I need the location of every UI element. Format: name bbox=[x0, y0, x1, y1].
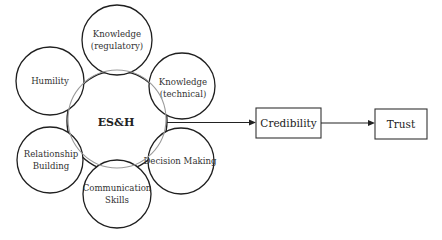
node-label-line1: Knowledge bbox=[159, 77, 207, 87]
node-label-line2: Skills bbox=[105, 195, 129, 205]
node-label-line2: (regulatory) bbox=[91, 41, 143, 51]
node-knowledge-regulatory: Knowledge (regulatory) bbox=[82, 5, 152, 75]
node-label-line1: Decision Making bbox=[143, 156, 217, 166]
flow-box-trust: Trust bbox=[375, 109, 427, 139]
esh-credibility-diagram: Knowledge (regulatory) Knowledge (techni… bbox=[0, 0, 442, 240]
flow-box-label: Credibility bbox=[260, 117, 316, 129]
node-relationship-building: Relationship Building bbox=[17, 127, 83, 193]
flow-box-label: Trust bbox=[387, 118, 416, 130]
node-humility: Humility bbox=[16, 47, 84, 115]
node-label-line2: (technical) bbox=[160, 89, 207, 99]
node-knowledge-technical: Knowledge (technical) bbox=[149, 53, 215, 119]
flow-box-credibility: Credibility bbox=[256, 108, 321, 138]
arrow-credibility-to-trust bbox=[321, 120, 375, 126]
node-label-line1: Knowledge bbox=[93, 29, 141, 39]
node-label-line1: Communication bbox=[83, 183, 152, 193]
node-communication-skills: Communication Skills bbox=[83, 160, 152, 228]
node-label-line2: Building bbox=[33, 161, 70, 171]
node-label-line1: Humility bbox=[31, 76, 69, 86]
hub-label: ES&H bbox=[98, 116, 135, 129]
node-label-line1: Relationship bbox=[24, 149, 79, 159]
arrow-hub-to-credibility bbox=[167, 120, 256, 126]
